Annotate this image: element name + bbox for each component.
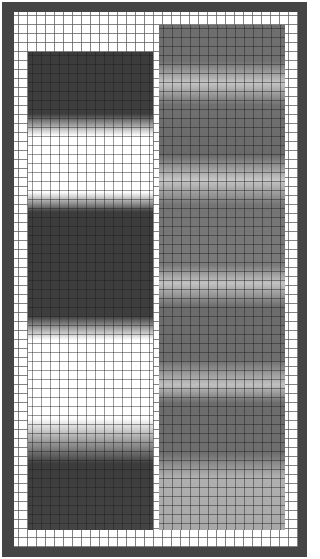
grid-overlay (28, 52, 153, 530)
left-gradient-column (28, 52, 153, 530)
grid-overlay (159, 25, 285, 530)
right-gradient-column (159, 25, 285, 530)
